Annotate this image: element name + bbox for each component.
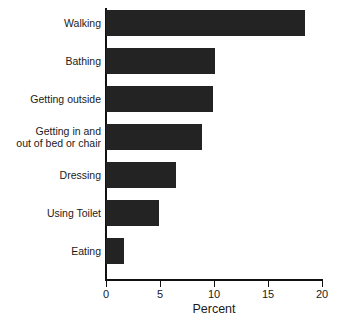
category-label-using-toilet: Using Toilet	[47, 207, 101, 219]
category-label-bathing: Bathing	[65, 55, 101, 67]
x-tick-0	[106, 281, 107, 287]
bar-dressing	[106, 162, 176, 188]
category-label-walking: Walking	[64, 17, 101, 29]
x-tick-1	[160, 281, 161, 287]
category-label-getting-outside: Getting outside	[30, 93, 101, 105]
x-tick-4	[322, 281, 323, 287]
category-label-getting-in-out-of-bed-or-chair: Getting in and out of bed or chair	[16, 125, 101, 149]
x-tick-label-3: 15	[253, 288, 283, 301]
bar-chart: 0 5 10 15 20 Walking Bathing Getting out…	[0, 0, 350, 323]
x-tick-label-2: 10	[199, 288, 229, 301]
bar-using-toilet	[106, 200, 159, 226]
bar-getting-outside	[106, 86, 213, 112]
bar-bathing	[106, 48, 215, 74]
bar-getting-in-out-of-bed-or-chair	[106, 124, 202, 150]
x-tick-3	[268, 281, 269, 287]
x-tick-label-0: 0	[91, 288, 121, 301]
plot-area: 0 5 10 15 20 Walking Bathing Getting out…	[0, 0, 350, 323]
x-tick-2	[214, 281, 215, 287]
x-tick-label-1: 5	[145, 288, 175, 301]
x-tick-label-4: 20	[307, 288, 337, 301]
category-label-eating: Eating	[71, 245, 101, 257]
bar-eating	[106, 238, 124, 264]
bar-walking	[106, 10, 305, 36]
category-label-dressing: Dressing	[60, 169, 101, 181]
x-axis-title: Percent	[105, 302, 323, 316]
